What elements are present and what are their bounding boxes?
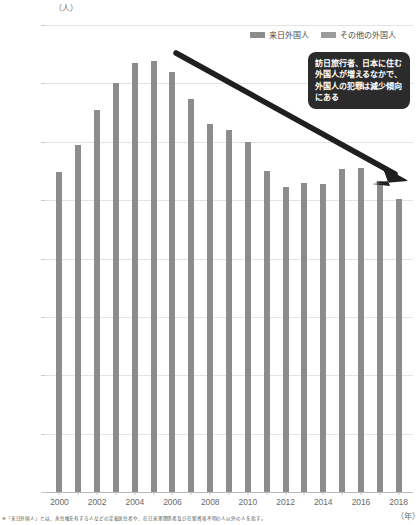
x-axis-tick [210, 492, 211, 495]
bar [207, 124, 213, 492]
x-axis-slot: 2016 [352, 492, 371, 516]
bar-slot [182, 25, 201, 492]
legend-label-0: 来日外国人 [269, 29, 309, 40]
x-axis-tick-label: 2004 [126, 497, 145, 507]
bar-slot [50, 25, 69, 492]
bar [226, 130, 232, 492]
x-axis-slot [182, 492, 201, 516]
x-axis-slot: 2010 [238, 492, 257, 516]
x-axis-slot: 2012 [276, 492, 295, 516]
bar [377, 181, 383, 492]
x-axis-slot: 2014 [314, 492, 333, 516]
bar [132, 63, 138, 492]
x-axis-labels-group: 2000200220042006200820102012201420162018 [45, 492, 413, 516]
bar [94, 110, 100, 492]
x-axis-tick [285, 492, 286, 495]
bar-slot [107, 25, 126, 492]
bar-slot [238, 25, 257, 492]
bar [358, 168, 364, 492]
x-axis-tick-label: 2008 [201, 497, 220, 507]
bar-slot [163, 25, 182, 492]
chart-container: （人） 16,00014,00012,00010,0008,0006,0004,… [0, 0, 420, 525]
x-axis-slot [370, 492, 389, 516]
x-axis-tick [115, 492, 116, 495]
x-axis-slot: 2008 [201, 492, 220, 516]
x-axis-tick [247, 492, 248, 495]
x-axis-tick [379, 492, 380, 495]
x-axis-tick [59, 492, 60, 495]
bar [151, 61, 157, 492]
x-axis-slot [257, 492, 276, 516]
bar [75, 145, 81, 492]
bar [283, 187, 289, 492]
bar [188, 99, 194, 492]
x-axis-tick [153, 492, 154, 495]
x-axis-slot: 2002 [88, 492, 107, 516]
bar [396, 199, 402, 492]
legend-label-1: その他の外国人 [340, 29, 396, 40]
y-axis-unit-label: （人） [54, 2, 77, 13]
x-axis-tick-label: 2012 [276, 497, 295, 507]
x-axis-tick [323, 492, 324, 495]
bar [245, 142, 251, 492]
x-axis-tick [266, 492, 267, 495]
bar-slot [144, 25, 163, 492]
bar-slot [125, 25, 144, 492]
legend-item-1: その他の外国人 [321, 29, 396, 40]
x-axis-tick-label: 2002 [88, 497, 107, 507]
bar [113, 83, 119, 492]
bar-slot [201, 25, 220, 492]
x-axis-slot: 2006 [163, 492, 182, 516]
bar [320, 184, 326, 492]
chart-footnote: ※「来日外国人」とは、永住権を有する人などの定着居住者や、在日米軍関係者及び在留… [2, 516, 418, 522]
bar-slot [276, 25, 295, 492]
x-axis-tick [134, 492, 135, 495]
bar-slot [257, 25, 276, 492]
x-axis-slot [69, 492, 88, 516]
x-axis-tick [78, 492, 79, 495]
legend-swatch-icon [321, 32, 336, 38]
x-axis-tick-label: 2000 [50, 497, 69, 507]
bar [56, 172, 62, 492]
x-axis-slot [144, 492, 163, 516]
trend-callout-box: 訪日旅行者、日本に住む外国人が増えるなかで、外国人の犯罪は減少傾向にある [308, 52, 410, 109]
x-axis-slot: 2004 [125, 492, 144, 516]
x-axis-slot [333, 492, 352, 516]
x-axis-tick-label: 2016 [352, 497, 371, 507]
x-axis-tick-label: 2010 [239, 497, 258, 507]
bar [301, 183, 307, 492]
legend-swatch-icon [250, 32, 265, 38]
x-axis-tick [172, 492, 173, 495]
bar-slot [220, 25, 239, 492]
x-axis-tick [304, 492, 305, 495]
bar-slot [69, 25, 88, 492]
x-axis-slot [220, 492, 239, 516]
bar [169, 72, 175, 492]
chart-legend: 来日外国人 その他の外国人 [250, 29, 396, 40]
x-axis-slot [295, 492, 314, 516]
legend-item-0: 来日外国人 [250, 29, 309, 40]
x-axis-tick-label: 2014 [314, 497, 333, 507]
x-axis-tick [360, 492, 361, 495]
x-axis-tick [398, 492, 399, 495]
x-axis-slot [107, 492, 126, 516]
x-axis-tick [191, 492, 192, 495]
x-axis-tick [342, 492, 343, 495]
x-axis-tick-label: 2006 [163, 497, 182, 507]
x-axis-slot: 2000 [50, 492, 69, 516]
x-axis-tick [97, 492, 98, 495]
x-axis-tick [229, 492, 230, 495]
bar [339, 169, 345, 492]
bar-slot [88, 25, 107, 492]
x-axis-tick-label: 2018 [389, 497, 408, 507]
bar [264, 171, 270, 492]
